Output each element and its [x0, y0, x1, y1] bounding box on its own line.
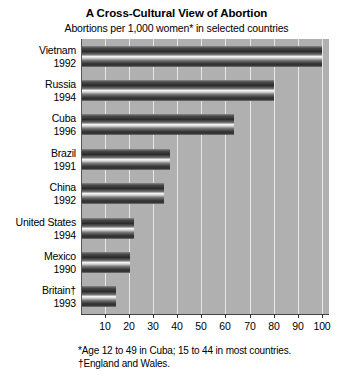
y-label-year: 1994: [0, 229, 76, 242]
y-label-country: United States: [0, 216, 76, 229]
bar-vietnam: [81, 46, 322, 67]
y-label-country: Russia: [0, 78, 76, 91]
y-label-year: 1996: [0, 125, 76, 138]
y-label-year: 1993: [0, 297, 76, 310]
y-label-brazil: Brazil1991: [0, 147, 76, 172]
chart-figure: A Cross-Cultural View of Abortion Aborti…: [0, 0, 353, 386]
x-tick-90: [298, 314, 299, 318]
y-label-russia: Russia1994: [0, 78, 76, 103]
footnote-dagger: †England and Wales.: [78, 358, 353, 371]
x-tick-70: [250, 314, 251, 318]
y-label-country: Vietnam: [0, 44, 76, 57]
y-label-year: 1992: [0, 57, 76, 70]
y-label-china: China1992: [0, 181, 76, 206]
y-label-unitedstates: United States1994: [0, 216, 76, 241]
x-tick-10: [105, 314, 106, 318]
y-label-country: Cuba: [0, 112, 76, 125]
y-label-country: Britain†: [0, 284, 76, 297]
y-label-country: Mexico: [0, 250, 76, 263]
plot-area: [81, 39, 329, 314]
x-tick-30: [153, 314, 154, 318]
chart-footnotes: *Age 12 to 49 in Cuba; 15 to 44 in most …: [78, 345, 353, 370]
y-label-year: 1990: [0, 263, 76, 276]
bar-mexico: [81, 252, 130, 273]
y-axis-line: [81, 39, 82, 314]
x-axis-line: [81, 314, 329, 315]
bar-china: [81, 183, 164, 204]
x-tick-60: [225, 314, 226, 318]
bar-britain: [81, 286, 116, 307]
footnote-asterisk: *Age 12 to 49 in Cuba; 15 to 44 in most …: [78, 345, 353, 358]
chart-title: A Cross-Cultural View of Abortion: [0, 7, 353, 19]
y-label-year: 1991: [0, 160, 76, 173]
x-tick-label-100: 100: [307, 320, 337, 332]
y-label-year: 1994: [0, 91, 76, 104]
x-tick-20: [129, 314, 130, 318]
gridline-100: [322, 39, 323, 314]
bar-unitedstates: [81, 218, 134, 239]
bar-cuba: [81, 114, 234, 135]
x-tick-100: [322, 314, 323, 318]
bar-brazil: [81, 149, 170, 170]
x-tick-40: [177, 314, 178, 318]
y-label-year: 1992: [0, 194, 76, 207]
chart-subtitle: Abortions per 1,000 women* in selected c…: [0, 22, 353, 34]
y-label-mexico: Mexico1990: [0, 250, 76, 275]
y-label-country: Brazil: [0, 147, 76, 160]
y-label-britain: Britain†1993: [0, 284, 76, 309]
y-axis-labels: Vietnam1992Russia1994Cuba1996Brazil1991C…: [0, 39, 76, 314]
gridline-80: [274, 39, 275, 314]
y-label-country: China: [0, 181, 76, 194]
gridline-90: [298, 39, 299, 314]
bar-russia: [81, 80, 274, 101]
x-tick-80: [274, 314, 275, 318]
x-tick-50: [201, 314, 202, 318]
y-label-cuba: Cuba1996: [0, 112, 76, 137]
y-label-vietnam: Vietnam1992: [0, 44, 76, 69]
